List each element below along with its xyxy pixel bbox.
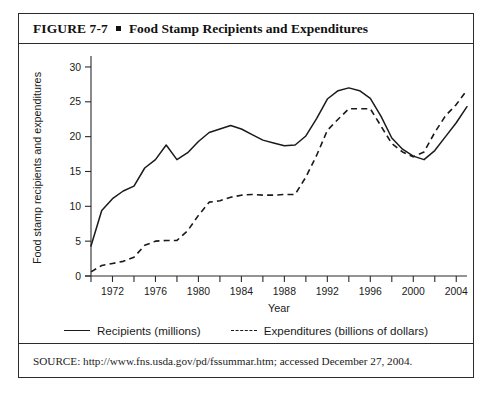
- legend-label-expenditures: Expenditures (billions of dollars): [264, 324, 428, 337]
- series-expenditures-line: [91, 90, 467, 272]
- x-tick-label: 1992: [316, 286, 339, 297]
- figure-number: FIGURE 7-7: [33, 21, 108, 37]
- x-tick-label: 1980: [187, 286, 210, 297]
- y-tick-label: 10: [69, 201, 81, 212]
- y-tick-label: 0: [75, 271, 81, 282]
- x-tick-label: 1984: [230, 286, 253, 297]
- legend-swatch-solid-icon: [64, 330, 90, 331]
- chart-plot-area: 0510152025301972197619801984198819921996…: [19, 44, 475, 344]
- figure-header: FIGURE 7-7 Food Stamp Recipients and Exp…: [19, 14, 473, 44]
- y-tick-label: 5: [75, 236, 81, 247]
- legend-label-recipients: Recipients (millions): [97, 324, 201, 337]
- series-recipients-line: [91, 88, 467, 246]
- source-text: SOURCE: http://www.fns.usda.gov/pd/fssum…: [33, 355, 412, 367]
- source-bar: SOURCE: http://www.fns.usda.gov/pd/fssum…: [19, 343, 473, 377]
- x-tick-label: 1988: [273, 286, 296, 297]
- chart-legend: Recipients (millions) Expenditures (bill…: [19, 317, 473, 343]
- legend-item-expenditures: Expenditures (billions of dollars): [231, 324, 428, 337]
- x-tick-label: 1976: [144, 286, 167, 297]
- legend-swatch-dashed-icon: [231, 330, 257, 331]
- y-tick-label: 15: [69, 166, 81, 177]
- x-axis-title: Year: [268, 302, 290, 314]
- x-tick-label: 2004: [445, 286, 468, 297]
- y-axis-title: Food stamp recipients and expenditures: [31, 71, 43, 264]
- x-tick-label: 1996: [359, 286, 382, 297]
- x-tick-label: 2000: [402, 286, 425, 297]
- figure-title: Food Stamp Recipients and Expenditures: [129, 21, 368, 37]
- y-tick-label: 20: [69, 131, 81, 142]
- y-tick-label: 25: [69, 96, 81, 107]
- x-tick-label: 1972: [101, 286, 124, 297]
- figure-box: FIGURE 7-7 Food Stamp Recipients and Exp…: [18, 13, 474, 378]
- y-tick-label: 30: [69, 62, 81, 73]
- bullet-icon: [116, 26, 121, 31]
- legend-item-recipients: Recipients (millions): [64, 324, 201, 337]
- line-chart: 0510152025301972197619801984198819921996…: [19, 44, 475, 344]
